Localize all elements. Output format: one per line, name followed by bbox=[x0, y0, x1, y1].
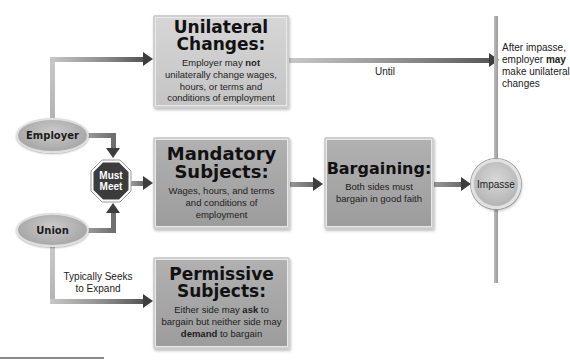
impasse-node: Impasse bbox=[471, 159, 521, 209]
label-bold-text: may bbox=[546, 54, 566, 65]
label-text: employer bbox=[502, 54, 546, 65]
body-bold-text: ask bbox=[242, 304, 258, 315]
title-line: Subjects: bbox=[167, 163, 277, 181]
arrow-to-mandatory-icon bbox=[143, 176, 153, 190]
body-text: Employer may bbox=[182, 57, 245, 68]
label-line: After impasse, bbox=[502, 42, 570, 54]
unilateral-changes-box: Unilateral Changes: Employer may not uni… bbox=[153, 15, 289, 108]
employer-label: Employer bbox=[26, 130, 79, 141]
after-impasse-label: After impasse, employer may make unilate… bbox=[502, 42, 570, 90]
union-to-permissive-vertical-line bbox=[50, 246, 55, 304]
impasse-label: Impasse bbox=[477, 179, 515, 190]
label-line: to Expand bbox=[57, 283, 139, 295]
bargaining-body: Both sides must bargain in good faith bbox=[326, 181, 432, 205]
bargaining-title: Bargaining: bbox=[327, 161, 432, 177]
arrow-up-to-must-meet-icon bbox=[106, 203, 120, 213]
permissive-subjects-body: Either side may ask to bargain but neith… bbox=[155, 304, 288, 340]
arrow-to-permissive-icon bbox=[143, 294, 153, 308]
employer-to-unilateral-horizontal-line bbox=[50, 57, 143, 62]
employer-to-unilateral-vertical-line bbox=[50, 57, 55, 119]
typically-seeks-label: Typically Seeks to Expand bbox=[57, 271, 139, 295]
arrow-to-unilateral-icon bbox=[143, 52, 153, 66]
arrow-to-bargaining-icon bbox=[313, 177, 323, 191]
unilateral-changes-body: Employer may not unilaterally change wag… bbox=[155, 57, 287, 105]
must-meet-text: Must Meet bbox=[90, 159, 132, 203]
permissive-subjects-title: Permissive Subjects: bbox=[169, 266, 274, 300]
union-to-must-meet-vertical bbox=[111, 212, 116, 233]
must-meet-octagon: Must Meet bbox=[90, 159, 132, 203]
must-meet-line: Meet bbox=[100, 181, 123, 193]
label-line: employer may bbox=[502, 54, 570, 66]
mandatory-subjects-box: Mandatory Subjects: Wages, hours, and te… bbox=[153, 137, 290, 229]
unilateral-changes-title: Unilateral Changes: bbox=[174, 19, 268, 53]
body-text: unilaterally change wages, hours, or ter… bbox=[165, 69, 277, 104]
mandatory-subjects-title: Mandatory Subjects: bbox=[167, 145, 277, 181]
employer-node: Employer bbox=[16, 118, 89, 153]
label-line: make unilateral bbox=[502, 66, 570, 78]
title-line: Changes: bbox=[174, 36, 268, 53]
must-meet-line: Must bbox=[99, 170, 122, 182]
until-label: Until bbox=[375, 66, 395, 78]
bargaining-box: Bargaining: Both sides must bargain in g… bbox=[324, 137, 434, 229]
title-line: Subjects: bbox=[169, 283, 274, 300]
arrow-down-to-must-meet-icon bbox=[106, 148, 120, 158]
union-to-permissive-horizontal-line bbox=[50, 299, 143, 304]
label-line: Typically Seeks bbox=[57, 271, 139, 283]
label-line: changes bbox=[502, 78, 570, 90]
until-line bbox=[289, 58, 493, 63]
mandatory-to-bargaining-line bbox=[290, 182, 314, 187]
union-label: Union bbox=[36, 225, 69, 236]
body-bold-text: not bbox=[245, 57, 260, 68]
body-text: to bargain bbox=[217, 328, 262, 339]
impasse-vertical-line bbox=[494, 16, 498, 283]
body-bold-text: demand bbox=[181, 328, 217, 339]
arrow-to-impasse-icon bbox=[461, 177, 471, 191]
employer-to-must-meet-vertical bbox=[111, 133, 116, 149]
mandatory-subjects-body: Wages, hours, and terms and conditions o… bbox=[155, 185, 288, 221]
permissive-subjects-box: Permissive Subjects: Either side may ask… bbox=[153, 257, 290, 349]
footnote-rule bbox=[0, 357, 104, 359]
body-text: Either side may bbox=[174, 304, 242, 315]
union-node: Union bbox=[16, 213, 89, 247]
bargaining-to-impasse-line bbox=[434, 182, 462, 187]
